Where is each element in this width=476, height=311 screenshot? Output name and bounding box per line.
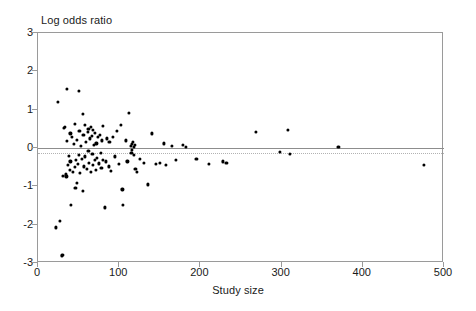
funnel-plot-figure: Log odds ratio 3210-1-2-3 01002003004005… bbox=[0, 0, 476, 311]
x-tick-label: 200 bbox=[190, 266, 208, 278]
x-tick-label: 400 bbox=[353, 266, 371, 278]
x-tick-mark bbox=[362, 262, 363, 267]
x-tick-label: 100 bbox=[109, 266, 127, 278]
x-tick-mark bbox=[118, 262, 119, 267]
x-tick-label: 0 bbox=[34, 266, 40, 278]
x-tick-label: 500 bbox=[434, 266, 452, 278]
x-tick-mark bbox=[199, 262, 200, 267]
x-axis: 0100200300400500 bbox=[0, 0, 476, 311]
x-tick-mark bbox=[443, 262, 444, 267]
x-axis-title: Study size bbox=[0, 284, 476, 296]
x-tick-mark bbox=[281, 262, 282, 267]
x-tick-mark bbox=[37, 262, 38, 267]
x-tick-label: 300 bbox=[271, 266, 289, 278]
